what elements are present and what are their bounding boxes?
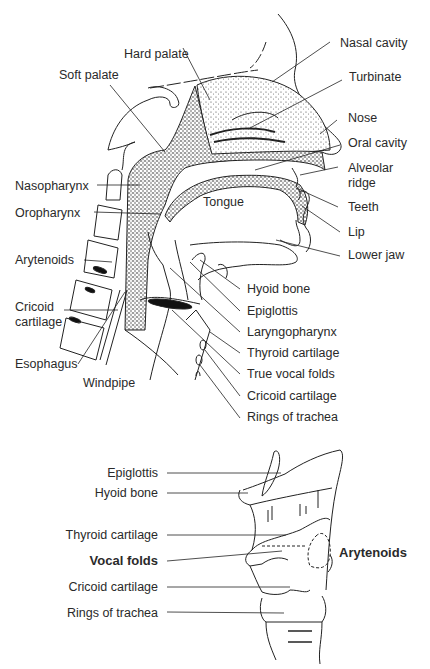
label-lower-cricoid-cartilage: Cricoid cartilage: [68, 580, 158, 594]
label-hard-palate: Hard palate: [124, 47, 189, 61]
label-alveolar-ridge-1: Alveolar: [348, 161, 393, 175]
label-lower-arytenoids: Arytenoids: [339, 546, 407, 560]
label-hyoid-bone: Hyoid bone: [247, 282, 310, 296]
label-teeth: Teeth: [348, 200, 379, 214]
label-lower-thyroid-cartilage: Thyroid cartilage: [66, 528, 158, 542]
label-nose: Nose: [348, 111, 377, 125]
label-lower-hyoid-bone: Hyoid bone: [95, 486, 158, 500]
label-cricoid-cartilage-right: Cricoid cartilage: [247, 389, 337, 403]
label-windpipe: Windpipe: [83, 376, 135, 390]
label-rings-of-trachea: Rings of trachea: [247, 410, 338, 424]
label-thyroid-cartilage: Thyroid cartilage: [247, 346, 339, 360]
label-epiglottis: Epiglottis: [247, 304, 298, 318]
label-nasopharynx: Nasopharynx: [15, 179, 89, 193]
anatomy-illustration: [0, 0, 430, 669]
label-lower-epiglottis: Epiglottis: [107, 466, 158, 480]
label-alveolar-ridge-2: ridge: [348, 176, 376, 190]
label-true-vocal-folds: True vocal folds: [247, 367, 335, 381]
label-arytenoids: Arytenoids: [15, 253, 74, 267]
label-cricoid-cartilage-left-2: cartilage: [15, 315, 62, 329]
label-tongue: Tongue: [203, 195, 244, 209]
label-lower-vocal-folds: Vocal folds: [90, 554, 158, 568]
label-nasal-cavity: Nasal cavity: [340, 36, 407, 50]
label-oropharynx: Oropharynx: [15, 206, 80, 220]
label-lower-rings-of-trachea: Rings of trachea: [67, 606, 158, 620]
label-oral-cavity: Oral cavity: [348, 136, 407, 150]
label-lower-jaw: Lower jaw: [348, 248, 404, 262]
label-esophagus: Esophagus: [15, 357, 78, 371]
label-soft-palate: Soft palate: [59, 68, 119, 82]
label-laryngopharynx: Laryngopharynx: [247, 325, 337, 339]
lower-figure: [167, 450, 343, 664]
label-turbinate: Turbinate: [349, 70, 401, 84]
label-cricoid-cartilage-left-1: Cricoid: [15, 300, 54, 314]
label-lip: Lip: [348, 225, 365, 239]
